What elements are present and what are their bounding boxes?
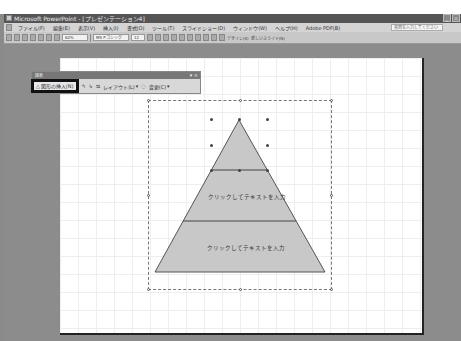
move-shape-backward-button[interactable]: ↰ bbox=[82, 83, 86, 89]
close-icon[interactable]: ▾ × bbox=[190, 72, 198, 79]
shape-handle[interactable] bbox=[266, 144, 269, 147]
insert-shape-button[interactable]: △ 図形の挿入(N) bbox=[31, 79, 79, 93]
layout-button[interactable]: レイアウト(L) ▾ bbox=[103, 83, 138, 90]
pyramid-level-3-text[interactable]: クリックしてテキストを入力 bbox=[207, 244, 285, 252]
reverse-diagram-button[interactable]: ⇆ bbox=[96, 83, 100, 89]
resize-handle[interactable] bbox=[147, 288, 150, 291]
change-to-button[interactable]: 変更(C) ▾ bbox=[149, 83, 170, 90]
resize-handle[interactable] bbox=[330, 99, 333, 102]
insert-shape-icon: △ bbox=[36, 82, 40, 90]
resize-handle[interactable] bbox=[330, 288, 333, 291]
autoformat-button[interactable]: ◌ bbox=[141, 83, 145, 89]
change-to-label: 変更(C) bbox=[149, 83, 166, 90]
diagram-toolbar-title: 図表 bbox=[35, 73, 43, 78]
shape-handle[interactable] bbox=[210, 118, 213, 121]
shape-handle[interactable] bbox=[238, 118, 241, 121]
shape-handle[interactable] bbox=[266, 169, 269, 172]
resize-handle[interactable] bbox=[330, 194, 333, 197]
resize-handle[interactable] bbox=[147, 194, 150, 197]
layout-label: レイアウト(L) bbox=[103, 83, 135, 90]
resize-handle[interactable] bbox=[239, 288, 242, 291]
diagram-toolbar-titlebar[interactable]: 図表 ▾ × bbox=[32, 72, 200, 79]
move-shape-forward-button[interactable]: ↳ bbox=[89, 83, 93, 89]
insert-shape-label: 図形の挿入(N) bbox=[41, 82, 74, 90]
shape-handle[interactable] bbox=[238, 169, 241, 172]
pyramid-level-2-text[interactable]: クリックしてテキストを入力 bbox=[208, 193, 286, 201]
chevron-down-icon: ▾ bbox=[167, 83, 170, 89]
resize-handle[interactable] bbox=[147, 99, 150, 102]
diagram-toolbar: 図表 ▾ × △ 図形の挿入(N) ↰ ↳ ⇆ レイアウト(L) ▾ ◌ 変更(… bbox=[31, 71, 201, 94]
chevron-down-icon: ▾ bbox=[136, 83, 139, 89]
resize-handle[interactable] bbox=[239, 99, 242, 102]
shape-handle[interactable] bbox=[210, 144, 213, 147]
shape-handle[interactable] bbox=[210, 169, 213, 172]
shape-handle[interactable] bbox=[266, 118, 269, 121]
